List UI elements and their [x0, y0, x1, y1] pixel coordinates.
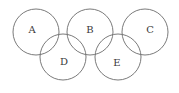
- label-b: B: [86, 24, 93, 35]
- label-c: C: [146, 24, 154, 35]
- circle-c: [122, 9, 168, 55]
- circle-group-b: B: [67, 9, 113, 55]
- circle-a: [13, 9, 59, 55]
- label-a: A: [27, 24, 36, 35]
- label-e: E: [113, 57, 120, 68]
- label-d: D: [60, 56, 68, 67]
- circle-group-e: E: [95, 34, 141, 80]
- circle-group-d: D: [40, 34, 86, 80]
- olympic-rings-diagram: A B C D E: [0, 0, 179, 93]
- circle-group-a: A: [13, 9, 59, 55]
- circle-group-c: C: [122, 9, 168, 55]
